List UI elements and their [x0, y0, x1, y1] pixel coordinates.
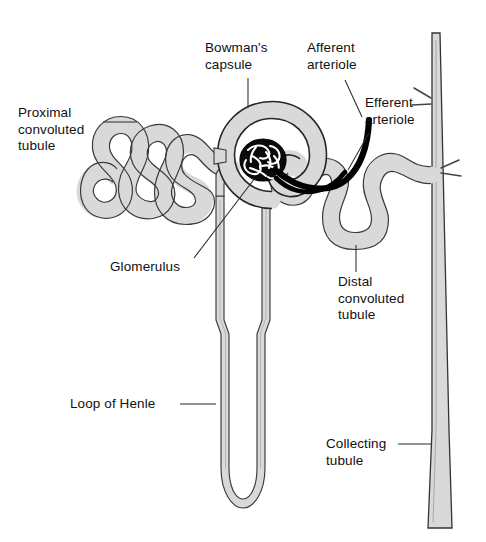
collecting-tubule-branch-lower: [441, 160, 461, 176]
nephron-diagram: Proximal convoluted tubule Bowman's caps…: [0, 0, 486, 542]
loop-of-henle: [216, 196, 270, 508]
label-efferent-arteriole: Efferent arteriole: [365, 95, 415, 128]
capsule-proximal-neck: [214, 148, 226, 164]
label-bowmans-capsule: Bowman's capsule: [205, 40, 268, 73]
nephron-drawing: [0, 0, 486, 542]
label-distal-convoluted-tubule: Distal convoluted tubule: [338, 274, 404, 324]
label-afferent-arteriole: Afferent arteriole: [307, 40, 357, 73]
label-loop-of-henle: Loop of Henle: [70, 396, 155, 413]
label-glomerulus: Glomerulus: [110, 259, 180, 276]
proximal-convoluted-tubule: [81, 117, 232, 225]
label-collecting-tubule: Collecting tubule: [326, 436, 386, 469]
collecting-tubule-branch-upper: [412, 88, 431, 105]
collecting-tubule-body: [428, 33, 452, 528]
leader-afferent-arteriole: [345, 80, 362, 117]
loop-of-henle-body: [216, 196, 270, 508]
label-proximal-convoluted-tubule: Proximal convoluted tubule: [18, 105, 84, 155]
collecting-tubule: [412, 33, 461, 528]
